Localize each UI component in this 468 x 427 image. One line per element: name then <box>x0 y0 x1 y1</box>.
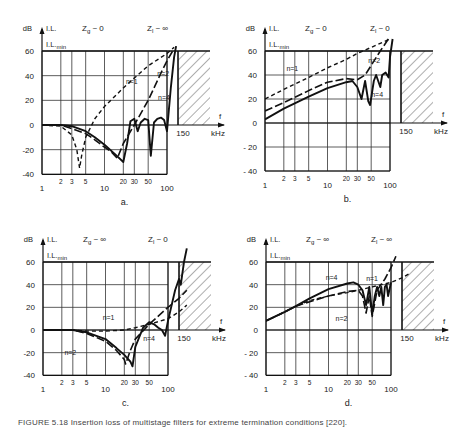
y-tick-label: - 40 <box>243 167 257 176</box>
x-tick-label: 5 <box>307 175 311 182</box>
series-n1 <box>43 305 187 331</box>
x-axis-unit: kHz <box>212 334 226 343</box>
x-tick-label: 1 <box>264 385 269 394</box>
y-tick-label: -40 <box>23 371 35 380</box>
il-min-label: I.L.min <box>270 251 290 261</box>
figure: 6040200-20-40123510203050100150kHzfdBI.L… <box>0 0 468 427</box>
y-axis-unit: dB <box>247 235 256 244</box>
x-axis-unit: kHz <box>434 127 448 136</box>
forbidden-region-hatch <box>401 51 433 123</box>
series-n2 <box>42 49 174 159</box>
x-tick-label: 5 <box>308 379 312 386</box>
x-tick-label: 20 <box>120 178 128 185</box>
x-tick-label: 50 <box>368 175 376 182</box>
y-series-label: I.L. <box>47 235 57 244</box>
series-annotation: n=4 <box>371 91 383 98</box>
y-tick-label: 40 <box>248 71 257 80</box>
il-min-label: I.L.min <box>47 251 67 261</box>
load-impedance-label: Zl ~ ∞ <box>147 24 168 34</box>
series-annotation: n=2 <box>336 315 348 322</box>
grid <box>42 51 167 174</box>
x-tick-label: 1 <box>41 385 46 394</box>
x-tick-label: 3 <box>70 178 74 185</box>
panel-label: d. <box>345 398 353 408</box>
series-n4 <box>42 46 176 162</box>
y-series-label: I.L. <box>270 235 280 244</box>
x-tick-label: 20 <box>343 175 351 182</box>
series-annotation: n=1 <box>103 314 115 321</box>
x-tick-label: 10 <box>101 385 110 394</box>
y-tick-label: 20 <box>249 303 258 312</box>
x-axis-unit: kHz <box>211 129 225 138</box>
x-tick-label: 100 <box>161 385 175 394</box>
y-tick-label: - 20 <box>243 143 257 152</box>
x-tick-label: 2 <box>282 175 286 182</box>
panel-label: a. <box>121 197 129 207</box>
x-tick-label: 100 <box>384 385 398 394</box>
x-tick-label: 2 <box>60 379 64 386</box>
x-axis-symbol: f <box>443 317 446 326</box>
source-impedance-label: Zg ~ ∞ <box>83 235 106 245</box>
y-axis-arrow-icon <box>264 238 269 245</box>
forbidden-region-label: 150 <box>177 334 191 343</box>
x-tick-label: 3 <box>71 379 75 386</box>
forbidden-region-label: 150 <box>176 129 190 138</box>
x-tick-label: 50 <box>146 379 154 386</box>
series-annotation: n=1 <box>286 65 298 72</box>
x-tick-label: 10 <box>324 385 333 394</box>
forbidden-region-hatch <box>179 262 211 330</box>
forbidden-region-hatch <box>178 51 210 125</box>
y-tick-label: 60 <box>26 258 35 267</box>
y-tick-label: 0 <box>253 119 258 128</box>
x-tick-label: 10 <box>323 181 332 190</box>
y-axis-arrow-icon <box>40 27 45 34</box>
x-tick-label: 2 <box>59 178 63 185</box>
x-tick-label: 20 <box>121 379 129 386</box>
x-axis-symbol: f <box>220 317 223 326</box>
chart-panel-c: 6040200-20-40123510203050100150kHzfdBI.L… <box>23 235 226 408</box>
series-annotation: n=4 <box>158 94 170 101</box>
forbidden-region-hatch <box>402 262 434 330</box>
y-tick-label: 0 <box>254 326 259 335</box>
y-axis-unit: dB <box>23 24 32 33</box>
y-tick-label: 20 <box>25 96 34 105</box>
chart-panel-b: 6040200- 20- 40123510203050100150kHzfdBI… <box>243 24 448 204</box>
y-tick-label: -20 <box>23 349 35 358</box>
x-tick-label: 1 <box>40 184 45 193</box>
series-annotation: n=1 <box>366 275 378 282</box>
load-impedance-label: Zl ~ ∞ <box>371 235 392 245</box>
series-annotation: n=4 <box>143 335 155 342</box>
x-tick-label: 30 <box>354 175 362 182</box>
series-annotation: n=2 <box>64 349 76 356</box>
x-tick-label: 3 <box>293 175 297 182</box>
y-tick-label: 0 <box>30 121 35 130</box>
y-axis-unit: dB <box>246 24 255 33</box>
y-tick-label: - 20 <box>244 349 258 358</box>
y-tick-label: -20 <box>22 146 34 155</box>
load-impedance-label: Zl ~ 0 <box>148 235 168 245</box>
x-tick-label: 50 <box>369 379 377 386</box>
source-impedance-label: Zg ~ ∞ <box>306 235 329 245</box>
y-tick-label: -40 <box>22 170 34 179</box>
x-tick-label: 5 <box>85 379 89 386</box>
y-tick-label: 60 <box>249 258 258 267</box>
y-tick-label: 0 <box>31 326 36 335</box>
x-tick-label: 10 <box>100 184 109 193</box>
x-tick-label: 30 <box>131 178 139 185</box>
x-axis-arrow-icon <box>219 328 226 333</box>
series-annotation: n=4 <box>326 274 338 281</box>
y-tick-label: 40 <box>26 281 35 290</box>
y-axis-unit: dB <box>24 235 33 244</box>
y-tick-label: 40 <box>25 72 34 81</box>
y-series-label: I.L. <box>269 24 279 33</box>
x-tick-label: 100 <box>160 184 174 193</box>
x-tick-label: 1 <box>263 181 268 190</box>
source-impedance-label: Zg ~ 0 <box>82 24 104 34</box>
panel-label: c. <box>122 398 129 408</box>
y-tick-label: - 40 <box>244 371 258 380</box>
panel-label: b. <box>344 194 352 204</box>
x-axis-symbol: f <box>219 112 222 121</box>
x-tick-label: 3 <box>294 379 298 386</box>
series-annotation: n=2 <box>157 70 169 77</box>
x-tick-label: 20 <box>344 379 352 386</box>
